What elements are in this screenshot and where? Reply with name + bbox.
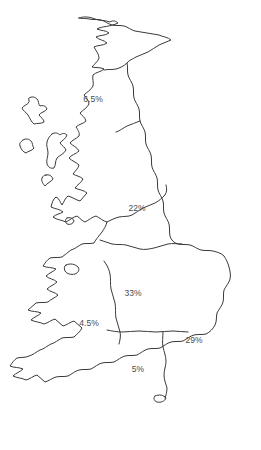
inner-hebrides-skye-island: [47, 133, 67, 168]
region-label-central-england: 33%: [124, 288, 141, 298]
firth-of-forth-notch: [116, 121, 140, 132]
region-label-north-england: 22%: [128, 203, 145, 213]
region-label-scotland: 6.5%: [83, 94, 103, 104]
north-central-border: [100, 240, 182, 249]
region-label-wales: 4.5%: [79, 318, 99, 328]
region-label-southwest: 5%: [132, 364, 145, 374]
outer-hebrides-north-island: [22, 97, 47, 124]
uk-outline-map[interactable]: 6.5% 22% 33% 4.5% 29% 5%: [0, 0, 261, 450]
inner-hebrides-mull-island: [42, 175, 53, 186]
anglesey-island: [64, 264, 78, 274]
outer-hebrides-south-island: [20, 139, 34, 153]
isle-of-man-island: [66, 218, 75, 225]
great-britain-coastline: [10, 17, 230, 382]
isle-of-wight-island: [154, 395, 166, 402]
region-label-southeast: 29%: [185, 335, 202, 345]
moray-firth-indentation: [104, 63, 127, 70]
southwest-southeast-border: [163, 332, 167, 398]
map-figure: 6.5% 22% 33% 4.5% 29% 5%: [0, 0, 261, 450]
